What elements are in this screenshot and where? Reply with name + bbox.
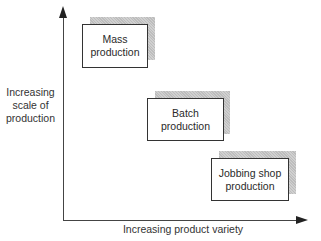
mass-production-label-line2: production bbox=[90, 46, 139, 59]
batch-production-box: Batch production bbox=[147, 98, 224, 141]
y-axis-label: Increasing scale of production bbox=[0, 86, 61, 125]
mass-production-label-line1: Mass bbox=[90, 33, 139, 46]
jobbing-production-label-line1: Jobbing shop bbox=[219, 167, 281, 180]
x-axis-line bbox=[63, 220, 301, 221]
batch-production-label-line2: production bbox=[161, 120, 210, 133]
jobbing-production-label-line2: production bbox=[219, 180, 281, 193]
batch-production-label-line1: Batch bbox=[161, 107, 210, 120]
y-axis-line bbox=[63, 12, 64, 221]
jobbing-production-box: Jobbing shop production bbox=[211, 158, 289, 201]
y-axis-arrow-icon bbox=[59, 6, 67, 18]
x-axis-label: Increasing product variety bbox=[63, 223, 303, 236]
mass-production-box: Mass production bbox=[82, 24, 148, 68]
